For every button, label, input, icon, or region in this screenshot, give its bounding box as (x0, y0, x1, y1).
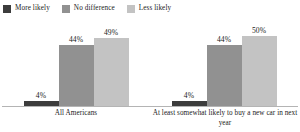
bar[interactable] (94, 38, 129, 107)
legend-label: No difference (74, 5, 115, 12)
x-axis-line (2, 106, 298, 107)
bar-slot: 50% (242, 22, 277, 107)
bar-value-label: 4% (184, 92, 194, 100)
bar[interactable] (242, 36, 277, 107)
plot-area: 4% 44% 49% 4% 44% (0, 22, 300, 107)
bar-group-likely-buyers: 4% 44% 50% (156, 22, 292, 107)
legend-swatch-icon (127, 5, 135, 13)
bar-slot: 4% (24, 22, 59, 107)
legend-item-no-difference[interactable]: No difference (62, 5, 115, 13)
bar-chart: More likely No difference Less likely 4%… (0, 0, 300, 132)
chart-legend: More likely No difference Less likely (0, 0, 300, 18)
bar[interactable] (207, 45, 242, 107)
bar-value-label: 44% (69, 36, 83, 44)
x-axis-labels: All Americans At least somewhat likely t… (0, 109, 300, 132)
bar-value-label: 4% (36, 92, 46, 100)
legend-label: Less likely (139, 5, 171, 12)
bar-value-label: 49% (104, 29, 118, 37)
legend-item-more-likely[interactable]: More likely (3, 5, 50, 13)
category-label: At least somewhat likely to buy a new ca… (150, 109, 300, 128)
bar-slot: 44% (207, 22, 242, 107)
bar-slot: 49% (94, 22, 129, 107)
legend-swatch-icon (62, 5, 70, 13)
legend-swatch-icon (3, 5, 11, 13)
bar-value-label: 44% (217, 36, 231, 44)
bar[interactable] (59, 45, 94, 107)
bar-value-label: 50% (252, 27, 266, 35)
bar-slot: 44% (59, 22, 94, 107)
legend-label: More likely (15, 5, 50, 12)
legend-item-less-likely[interactable]: Less likely (127, 5, 171, 13)
bar-slot: 4% (172, 22, 207, 107)
category-label: All Americans (8, 109, 144, 119)
bar-group-all-americans: 4% 44% 49% (8, 22, 144, 107)
